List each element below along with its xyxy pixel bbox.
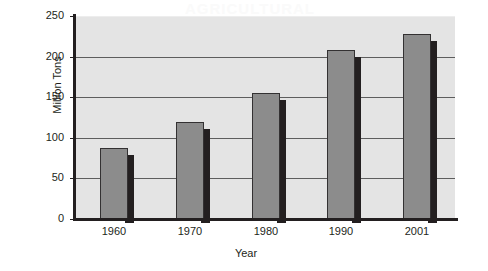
y-tick-label-200: 200 [14, 50, 64, 62]
gridline-200 [76, 57, 455, 58]
y-tick-mark-150 [70, 97, 76, 98]
y-tick-label-150: 150 [14, 90, 64, 102]
x-tick-label-1960: 1960 [84, 225, 144, 237]
bar-body-1990 [327, 50, 355, 219]
y-tick-label-50: 50 [14, 171, 64, 183]
y-tick-label-250: 250 [14, 9, 64, 21]
x-tick-label-2001: 2001 [387, 225, 447, 237]
y-axis-line [73, 14, 76, 221]
x-tick-label-1970: 1970 [160, 225, 220, 237]
x-axis-line [73, 218, 458, 221]
bar-1970[interactable] [176, 122, 204, 219]
y-tick-label-100: 100 [14, 131, 64, 143]
bar-body-1980 [252, 93, 280, 219]
bar-1980[interactable] [252, 93, 280, 219]
bar-body-2001 [403, 34, 431, 219]
bar-body-1960 [100, 148, 128, 219]
plot-area [76, 16, 455, 219]
x-tick-label-1990: 1990 [311, 225, 371, 237]
bar-1990[interactable] [327, 50, 355, 219]
y-tick-mark-200 [70, 57, 76, 58]
watermark-text: AGRICULTURAL [185, 1, 435, 17]
y-tick-mark-100 [70, 138, 76, 139]
bar-chart-figure: AGRICULTURAL Million Tons 05010015020025… [0, 0, 488, 271]
x-axis-title: Year [196, 247, 296, 259]
y-tick-mark-0 [70, 219, 76, 220]
y-tick-mark-250 [70, 16, 76, 17]
y-tick-mark-50 [70, 178, 76, 179]
bar-1960[interactable] [100, 148, 128, 219]
bar-2001[interactable] [403, 34, 431, 219]
bar-body-1970 [176, 122, 204, 219]
x-tick-label-1980: 1980 [236, 225, 296, 237]
y-tick-label-0: 0 [14, 212, 64, 224]
plot-top-highlight [76, 16, 455, 17]
